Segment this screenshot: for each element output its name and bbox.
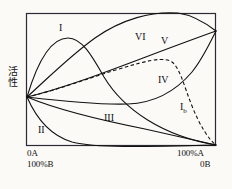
curve-i — [27, 38, 216, 145]
curve-label-v: V — [161, 35, 169, 46]
x-axis-left-label-primary: 0A — [27, 148, 38, 158]
chart-figure: 活性 I II III IV V VI Ib 0A 100%B 100%A 0B — [0, 0, 232, 189]
curve-label-ii: II — [38, 124, 45, 135]
curve-ib — [27, 59, 216, 145]
curve-label-ib: Ib — [180, 101, 187, 115]
curve-label-i: I — [59, 22, 62, 33]
curve-vi — [27, 13, 216, 97]
x-axis-right-label-secondary: 0B — [200, 159, 210, 169]
x-axis-left-label-secondary: 100%B — [27, 159, 54, 169]
curve-label-iii: III — [104, 112, 114, 123]
curve-v — [27, 31, 216, 97]
x-axis-right-label-primary: 100%A — [177, 148, 204, 158]
curve-label-vi: VI — [135, 31, 146, 42]
plot-frame — [27, 14, 216, 146]
curve-label-iv: IV — [158, 74, 169, 85]
